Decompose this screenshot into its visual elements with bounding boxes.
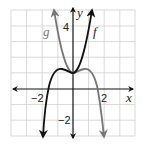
function-graph: −2 2 4 −2 x y f g (0, 0, 143, 147)
x-tick-2: 2 (101, 92, 107, 104)
x-axis-label: x (125, 90, 132, 105)
y-axis-label: y (75, 5, 83, 20)
x-tick-neg2: −2 (31, 92, 44, 104)
y-tick-4: 4 (63, 21, 69, 33)
y-tick-neg2: −2 (58, 114, 71, 126)
g-label: g (43, 24, 50, 39)
